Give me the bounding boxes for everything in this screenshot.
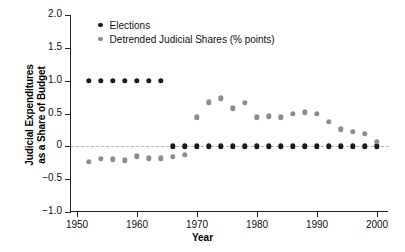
data-point — [86, 78, 91, 83]
data-point — [182, 152, 187, 157]
data-point — [122, 78, 127, 83]
data-point — [230, 106, 235, 111]
data-point — [110, 157, 115, 162]
x-axis-tick-label: 1960 — [126, 219, 148, 230]
y-axis-tick-label: −1.0 — [28, 205, 62, 216]
y-axis-tick-label: −0.5 — [28, 172, 62, 183]
data-point — [98, 78, 103, 83]
data-point — [146, 155, 151, 160]
data-point — [326, 119, 331, 124]
data-point — [338, 144, 343, 149]
data-point — [302, 144, 307, 149]
y-axis-tick — [65, 146, 71, 147]
data-point — [266, 113, 271, 118]
data-point — [194, 144, 199, 149]
y-axis-tick-label: 2.0 — [28, 8, 62, 19]
y-axis-tick — [65, 179, 71, 180]
data-point — [194, 115, 199, 120]
data-point — [218, 144, 223, 149]
data-point — [302, 109, 307, 114]
x-axis-tick-label: 2000 — [366, 219, 388, 230]
legend-marker-icon — [98, 23, 103, 28]
y-axis-tick — [65, 48, 71, 49]
data-point — [278, 115, 283, 120]
chart-figure: Judicial Expenditures as a Share of Budg… — [0, 0, 405, 252]
data-point — [290, 144, 295, 149]
data-point — [350, 144, 355, 149]
data-point — [122, 157, 127, 162]
data-point — [314, 111, 319, 116]
data-point — [242, 100, 247, 105]
data-point — [182, 144, 187, 149]
x-axis-tick-label: 1970 — [186, 219, 208, 230]
data-point — [266, 144, 271, 149]
legend-label: Elections — [110, 20, 151, 31]
data-point — [350, 129, 355, 134]
data-point — [338, 127, 343, 132]
data-point — [158, 78, 163, 83]
data-point — [206, 100, 211, 105]
data-point — [242, 144, 247, 149]
data-point — [362, 144, 367, 149]
data-point — [374, 144, 379, 149]
y-axis-tick — [65, 212, 71, 213]
x-axis-tick — [257, 211, 258, 217]
x-axis-tick-label: 1990 — [306, 219, 328, 230]
legend-label: Detrended Judicial Shares (% points) — [110, 34, 275, 45]
x-axis-tick-label: 1980 — [246, 219, 268, 230]
data-point — [326, 144, 331, 149]
data-point — [206, 144, 211, 149]
data-point — [374, 139, 379, 144]
data-point — [146, 78, 151, 83]
data-point — [110, 78, 115, 83]
legend-item-detrended-judicial-shares: Detrended Judicial Shares (% points) — [98, 32, 275, 46]
y-axis-tick — [65, 114, 71, 115]
data-point — [290, 111, 295, 116]
data-point — [314, 144, 319, 149]
chart-legend: Elections Detrended Judicial Shares (% p… — [98, 18, 275, 46]
y-axis-tick-label: 0 — [28, 139, 62, 150]
y-axis-tick-label: 0.5 — [28, 107, 62, 118]
legend-marker-icon — [98, 37, 103, 42]
data-point — [98, 156, 103, 161]
x-axis-tick — [197, 211, 198, 217]
data-point — [134, 153, 139, 158]
data-point — [230, 144, 235, 149]
data-point — [218, 96, 223, 101]
x-axis-tick — [137, 211, 138, 217]
x-axis-title: Year — [0, 232, 405, 243]
y-axis-tick-label: 1.5 — [28, 41, 62, 52]
data-point — [158, 155, 163, 160]
data-point — [86, 159, 91, 164]
x-axis-tick — [317, 211, 318, 217]
legend-item-elections: Elections — [98, 18, 275, 32]
data-point — [134, 78, 139, 83]
y-axis-tick-label: 1.0 — [28, 74, 62, 85]
x-axis-tick — [77, 211, 78, 217]
data-point — [278, 144, 283, 149]
data-point — [362, 131, 367, 136]
x-axis-tick-label: 1950 — [66, 219, 88, 230]
x-axis-tick — [377, 211, 378, 217]
data-point — [170, 144, 175, 149]
data-point — [254, 144, 259, 149]
data-point — [170, 154, 175, 159]
y-axis-tick — [65, 81, 71, 82]
data-point — [254, 115, 259, 120]
y-axis-tick — [65, 15, 71, 16]
